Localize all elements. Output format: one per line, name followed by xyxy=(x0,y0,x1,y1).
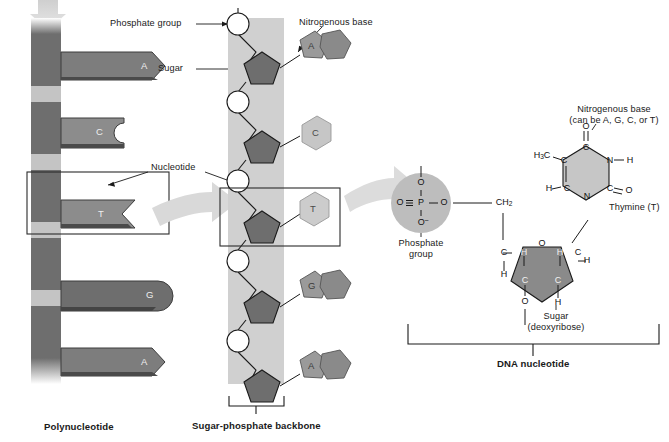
atom-thymine-o-top: O xyxy=(580,121,592,131)
atom-thymine-h-right: H xyxy=(624,155,636,165)
label-phosphate-group-detail-line2: group xyxy=(381,249,461,260)
atom-sugar-h-right-lower: H xyxy=(581,255,593,265)
base-bar-a-top xyxy=(61,52,165,80)
middle-base-letter-a-top: A xyxy=(308,40,314,51)
left-base-letter-c: C xyxy=(96,126,103,137)
base-bar-g xyxy=(61,281,173,311)
base-bar-c xyxy=(61,118,124,148)
atom-thymine-c-right-lower: C xyxy=(604,183,616,193)
atom-sugar-h-left-upper: H xyxy=(518,247,530,257)
zoom-arrow-left-to-middle xyxy=(152,182,238,226)
atom-thymine-n-right-upper: N xyxy=(604,155,616,165)
caption-sugar-phosphate-backbone: Sugar-phosphate backbone xyxy=(192,420,321,431)
atom-sugar-ring-o: O xyxy=(536,238,548,248)
atom-sugar-ch2: CH2 xyxy=(492,197,516,207)
sugar-deoxyribose-detail xyxy=(503,213,588,325)
polynucleotide-backbone xyxy=(31,18,61,384)
atom-thymine-h-left: H xyxy=(543,183,555,193)
callout-leader-lines xyxy=(108,21,322,188)
figure-graphics xyxy=(0,0,669,442)
atom-sugar-ch2-sub: 2 xyxy=(509,200,513,207)
callout-nucleotide: Nucleotide xyxy=(151,162,195,173)
callout-phosphate-group: Phosphate group xyxy=(110,18,181,29)
middle-base-letter-g: G xyxy=(308,280,316,291)
caption-dna-nucleotide: DNA nucleotide xyxy=(497,358,569,369)
callout-sugar: Sugar xyxy=(158,63,183,74)
atom-sugar-h-bottom-right: H xyxy=(552,297,564,307)
atom-phosphate-right-o: O xyxy=(438,197,450,207)
label-sugar-detail-line2: (deoxyribose) xyxy=(505,322,607,333)
label-thymine: Thymine (T) xyxy=(609,202,660,213)
label-sugar-detail-line1: Sugar xyxy=(516,311,596,322)
left-base-letter-a-bottom: A xyxy=(141,356,147,367)
atom-phosphate-bottom-o-charge: – xyxy=(425,216,429,223)
atom-thymine-c-upper-left: C xyxy=(558,155,570,165)
atom-sugar-c-bottom-left: C xyxy=(519,275,531,285)
atom-sugar-h-right-upper: H xyxy=(554,247,566,257)
left-base-letter-g: G xyxy=(146,289,154,300)
atom-phosphate-p: P xyxy=(415,197,427,207)
atom-thymine-n-bottom: N xyxy=(581,191,593,201)
dna-structure-figure: A C T G A A C T G A Phosphate group Suga… xyxy=(0,0,669,442)
atom-phosphate-left-o: O xyxy=(394,197,406,207)
atom-sugar-ch2-symbol: CH xyxy=(496,197,509,207)
atom-phosphate-bottom-o-symbol: O xyxy=(418,217,425,227)
atom-thymine-h3c: H3C xyxy=(528,150,556,160)
middle-base-letter-a-bottom: A xyxy=(308,360,314,371)
middle-base-letter-c: C xyxy=(312,127,319,138)
atom-sugar-o-bottom: O xyxy=(519,296,531,306)
atom-thymine-o-right: O xyxy=(623,185,635,195)
base-bar-a-bottom xyxy=(61,348,165,376)
left-base-letter-t: T xyxy=(98,208,104,219)
atom-thymine-c-top: C xyxy=(580,142,592,152)
atom-sugar-h-left-lower: H xyxy=(498,269,510,279)
atom-phosphate-bottom-o: O– xyxy=(414,216,432,227)
atom-thymine-c-lower-left: C xyxy=(561,183,573,193)
label-phosphate-group-detail-line1: Phosphate xyxy=(381,238,461,249)
left-base-letter-a-top: A xyxy=(141,60,147,71)
atom-sugar-c-bottom-right: C xyxy=(552,275,564,285)
atom-sugar-c-left: C xyxy=(498,247,510,257)
caption-polynucleotide: Polynucleotide xyxy=(44,421,114,432)
label-nitrogenous-base-detail-line2: (can be A, G, C, or T) xyxy=(556,115,669,126)
callout-nitrogenous-base: Nitrogenous base xyxy=(299,17,373,28)
label-nitrogenous-base-detail-line1: Nitrogenous base xyxy=(556,104,669,115)
atom-thymine-h3c-c: C xyxy=(544,150,551,160)
atom-phosphate-top-o: O xyxy=(415,177,427,187)
middle-base-letter-t: T xyxy=(310,203,316,214)
